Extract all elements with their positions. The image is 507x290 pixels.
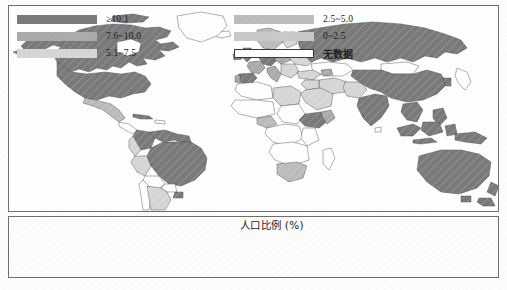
- legend-column-left: ≥10.1 7.6~10.0 5.1~7.5: [17, 12, 141, 63]
- legend-label-no-data: 无数据: [323, 46, 354, 61]
- legend-swatch-no-data: [234, 49, 314, 58]
- legend-swatch-ge-10-1: [17, 15, 97, 24]
- legend-swatch-2-5-5-0: [234, 15, 314, 24]
- legend-label-0-2-5: 0~2.5: [323, 31, 346, 41]
- legend-label-5-1-7-5: 5.1~7.5: [106, 48, 136, 58]
- legend-item-7-6-10-0[interactable]: 7.6~10.0: [17, 29, 141, 43]
- legend-label-ge-10-1: ≥10.1: [106, 14, 129, 24]
- legend-item-ge-10-1[interactable]: ≥10.1: [17, 12, 141, 26]
- legend-item-no-data[interactable]: 无数据: [234, 46, 354, 60]
- legend-item-0-2-5[interactable]: 0~2.5: [234, 29, 354, 43]
- legend-column-right: 2.5~5.0 0~2.5 无数据: [234, 12, 354, 63]
- legend-swatch-5-1-7-5: [17, 49, 97, 58]
- legend-title: 人口比例 (%): [240, 217, 304, 232]
- legend-swatch-7-6-10-0: [17, 32, 97, 41]
- legend-label-7-6-10-0: 7.6~10.0: [106, 31, 141, 41]
- legend-item-5-1-7-5[interactable]: 5.1~7.5: [17, 46, 141, 60]
- legend-swatch-0-2-5: [234, 32, 314, 41]
- legend-label-2-5-5-0: 2.5~5.0: [323, 14, 353, 24]
- legend-item-2-5-5-0[interactable]: 2.5~5.0: [234, 12, 354, 26]
